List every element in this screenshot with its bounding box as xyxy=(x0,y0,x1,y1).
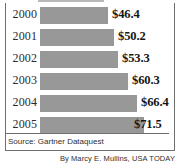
chart-row: 2002 $53.3 xyxy=(6,51,174,68)
category-label: 2005 xyxy=(6,116,37,133)
value-label: $66.4 xyxy=(141,94,169,111)
category-label: 2000 xyxy=(6,6,37,23)
value-label: $60.3 xyxy=(132,72,160,89)
category-label: 2003 xyxy=(6,72,37,89)
category-label: 2004 xyxy=(6,94,37,111)
chart-row: 2003 $60.3 xyxy=(6,73,174,90)
bar xyxy=(40,7,108,24)
credit-line: By Marcy E. Mullins, USA TODAY xyxy=(60,153,175,165)
value-label: $50.2 xyxy=(118,28,146,45)
bar xyxy=(40,29,114,46)
category-label: 2002 xyxy=(6,50,37,67)
chart-row: 2005 $71.5 xyxy=(6,117,174,134)
cropped-title-sliver xyxy=(38,0,104,2)
footer-divider xyxy=(6,133,169,134)
source-note: Source: Gartner Dataquest xyxy=(8,135,104,149)
chart-figure: 2000 $46.4 2001 $50.2 2002 $53.3 2003 $6… xyxy=(0,0,181,167)
value-label: $53.3 xyxy=(122,50,150,67)
bar xyxy=(40,73,128,90)
bar xyxy=(40,117,144,134)
bar-chart-plot: 2000 $46.4 2001 $50.2 2002 $53.3 2003 $6… xyxy=(6,5,174,133)
category-label: 2001 xyxy=(6,28,37,45)
chart-row: 2004 $66.4 xyxy=(6,95,174,112)
bar xyxy=(40,95,137,112)
chart-row: 2001 $50.2 xyxy=(6,29,174,46)
bar xyxy=(40,51,118,68)
chart-row: 2000 $46.4 xyxy=(6,7,174,24)
value-label: $71.5 xyxy=(134,116,162,133)
value-label: $46.4 xyxy=(112,6,140,23)
